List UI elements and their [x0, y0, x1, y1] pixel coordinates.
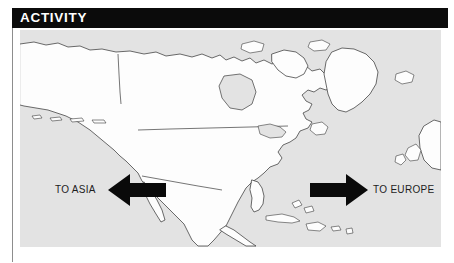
- hispaniola: [306, 222, 326, 231]
- florida-peninsula: [250, 180, 264, 212]
- northwest-europe: [419, 120, 441, 170]
- activity-header-bar: ACTIVITY: [12, 8, 448, 28]
- bahamas-b: [304, 206, 314, 213]
- arrow-left-shape: [108, 174, 166, 206]
- lesser-antilles: [346, 228, 353, 234]
- arrow-label-to-asia: TO ASIA: [55, 185, 96, 195]
- british-isles: [405, 144, 421, 161]
- newfoundland: [310, 122, 328, 135]
- page-title: ACTIVITY: [20, 11, 87, 25]
- arrow-right-shape: [310, 174, 368, 206]
- arrow-label-to-europe: TO EUROPE: [373, 185, 434, 195]
- left-margin-rule: [12, 28, 13, 262]
- iceland: [395, 71, 414, 84]
- puerto-rico: [331, 226, 341, 231]
- aleutian-islands-c: [70, 118, 84, 122]
- arrow-right-icon: [310, 174, 368, 206]
- arctic-island-a: [241, 41, 264, 53]
- aleutian-islands-b: [50, 117, 62, 121]
- bahamas-a: [292, 200, 302, 208]
- aleutian-islands-a: [32, 115, 42, 119]
- aleutian-islands-d: [92, 120, 106, 123]
- north-america-map: [20, 30, 441, 247]
- activity-page: ACTIVITY: [0, 0, 454, 263]
- arctic-island-b: [308, 40, 330, 51]
- arrow-left-icon: [108, 174, 166, 206]
- central-america: [220, 226, 256, 246]
- map-illustration: [20, 30, 441, 247]
- greenland: [324, 48, 378, 112]
- ireland: [395, 154, 406, 165]
- cuba: [266, 214, 300, 223]
